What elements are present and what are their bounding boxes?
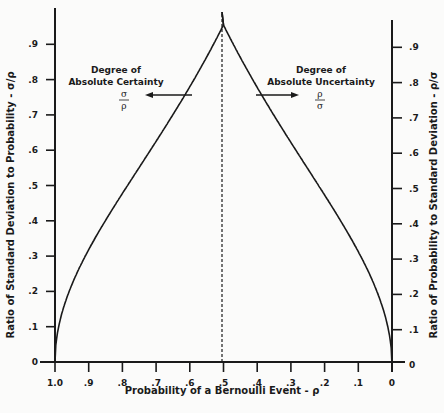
left-y-ticks: 0.1.2.3.4.5.6.7.8.9 — [28, 39, 55, 367]
right-y-tick-label: .3 — [409, 254, 419, 264]
x-axis-title: Probability of a Bernoulli Event - ρ — [125, 385, 320, 396]
uncertainty-annotation-line1: Degree of — [296, 65, 346, 75]
right-y-tick-label: .1 — [409, 325, 419, 335]
right-y-tick-label: .2 — [409, 289, 419, 299]
uncertainty-fraction-denominator: σ — [317, 101, 323, 111]
certainty-fraction-numerator: σ — [121, 89, 127, 99]
left-y-tick-label: .1 — [28, 322, 38, 332]
right-y-axis-title: Ratio of Probability to Standard Deviati… — [428, 71, 439, 338]
left-y-tick-label: .8 — [28, 75, 38, 85]
left-y-tick-label: .3 — [28, 251, 38, 261]
right-y-tick-label: .8 — [409, 78, 419, 88]
arrow-left-icon — [145, 92, 153, 98]
left-y-tick-label: 0 — [32, 357, 38, 367]
right-y-tick-label: .7 — [409, 113, 419, 123]
uncertainty-annotation-line2: Absolute Uncertainty — [267, 77, 375, 87]
left-y-tick-label: .2 — [28, 286, 38, 296]
left-y-axis-title: Ratio of Standard Deviation to Probabili… — [5, 71, 16, 338]
right-y-ticks: 0.1.2.3.4.5.6.7.8.9 — [392, 42, 419, 370]
right-y-tick-label: 0 — [409, 360, 415, 370]
x-tick-label: 1.0 — [47, 378, 63, 388]
x-tick-label: .1 — [353, 378, 363, 388]
certainty-fraction-denominator: ρ — [121, 101, 126, 111]
right-y-tick-label: .9 — [409, 42, 419, 52]
left-y-tick-label: .7 — [28, 110, 38, 120]
left-y-tick-label: .9 — [28, 39, 38, 49]
certainty-annotation-line2: Absolute Certainty — [68, 77, 163, 87]
right-y-tick-label: .6 — [409, 148, 419, 158]
x-tick-label: .2 — [320, 378, 330, 388]
left-y-tick-label: .4 — [28, 216, 38, 226]
left-y-tick-label: .5 — [28, 181, 38, 191]
x-tick-label: .9 — [84, 378, 94, 388]
certainty-annotation-line1: Degree of — [91, 65, 141, 75]
right-y-tick-label: .5 — [409, 184, 419, 194]
x-tick-label: 0 — [389, 378, 395, 388]
bernoulli-ratio-chart: 0.1.2.3.4.5.6.7.8.9 0.1.2.3.4.5.6.7.8.9 … — [0, 0, 444, 413]
uncertainty-fraction-numerator: ρ — [317, 89, 322, 99]
left-y-tick-label: .6 — [28, 145, 38, 155]
arrow-right-icon — [291, 92, 299, 98]
right-y-tick-label: .4 — [409, 219, 419, 229]
